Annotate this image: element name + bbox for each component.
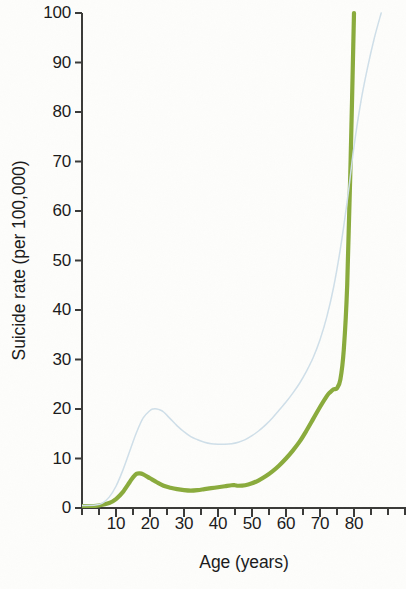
suicide-rate-by-age-chart: Suicide rate (per 100,000) Age (years) 0… (0, 0, 406, 589)
plot-area (0, 0, 406, 589)
series-line-upper-curve (82, 13, 381, 506)
series-line-lower-curve (82, 13, 354, 506)
data-series-group (82, 13, 381, 506)
